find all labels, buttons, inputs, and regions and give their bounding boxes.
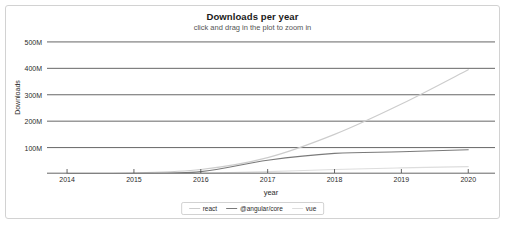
legend-item[interactable]: vue: [292, 205, 316, 212]
x-tick-label: 2018: [315, 176, 355, 183]
x-tick-label: 2020: [448, 176, 488, 183]
plot-area[interactable]: [47, 34, 495, 174]
legend-item[interactable]: react: [189, 205, 217, 212]
chart-subtitle: click and drag in the plot to zoom in: [6, 23, 499, 32]
chart-title: Downloads per year: [6, 11, 499, 22]
legend-label: @angular/core: [240, 205, 283, 212]
legend-line-icon: [226, 208, 237, 209]
y-tick-label: 500M: [8, 38, 42, 45]
legend-item[interactable]: @angular/core: [226, 205, 283, 212]
x-tick-label: 2017: [248, 176, 288, 183]
legend[interactable]: react@angular/corevue: [181, 202, 325, 215]
y-axis-tick-labels: 100M200M300M400M500M: [6, 34, 44, 174]
x-tick-label: 2019: [381, 176, 421, 183]
x-axis-title: year: [47, 188, 495, 197]
x-tick-label: 2014: [47, 176, 87, 183]
x-tick-label: 2015: [114, 176, 154, 183]
series-lines: [67, 70, 468, 174]
y-axis-title: Downloads: [14, 73, 21, 123]
gridlines: [47, 42, 495, 148]
legend-label: vue: [306, 205, 316, 212]
x-axis-tick-labels: 2014201520162017201820192020: [47, 176, 495, 188]
x-tick-label: 2016: [181, 176, 221, 183]
chart-card: Downloads per year click and drag in the…: [5, 5, 500, 219]
legend-label: react: [203, 205, 217, 212]
plot-svg[interactable]: [47, 34, 495, 174]
y-tick-label: 100M: [8, 144, 42, 151]
legend-line-icon: [189, 208, 200, 209]
series-line-react: [67, 70, 468, 174]
legend-line-icon: [292, 208, 303, 209]
y-tick-label: 400M: [8, 65, 42, 72]
x-axis-ticks: [67, 169, 468, 173]
